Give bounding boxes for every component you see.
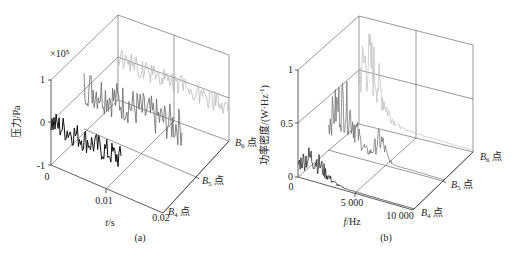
panel-a-axes [48, 80, 229, 213]
b-ytick-1: 1 [288, 64, 293, 75]
a-xtick-001: 0.01 [95, 195, 113, 206]
a-depth-b4: B4点 [168, 206, 190, 219]
a-ytick-1: 1 [40, 74, 45, 85]
a-ytick-neg1: -1 [37, 160, 45, 171]
a-xlabel: t/s [105, 217, 115, 228]
caption-a: (a) [134, 232, 145, 244]
b-depth-b6: B6点 [480, 151, 502, 164]
b-xtick-5000: 5 000 [341, 197, 364, 208]
panel-b-back-wall [298, 16, 473, 210]
a-series-trace [84, 73, 182, 145]
panel-a-traces [51, 48, 229, 166]
b-xlabel: f/Hz [343, 216, 361, 227]
a-ylabel: 压力/Pa [10, 105, 22, 138]
a-xtick-0: 0 [45, 171, 50, 182]
b-xtick-10000: 10 000 [386, 210, 414, 221]
a-exponent: ×10⁵ [50, 48, 69, 59]
panel-b-traces [298, 33, 474, 208]
figure: 1 0 -1 ×10⁵ 压力/Pa 0 0.01 0.02 t/s B4点 B5… [0, 0, 513, 258]
caption-b: (b) [380, 232, 392, 244]
a-depth-b5: B5点 [202, 175, 224, 188]
b-depth-b4: B4点 [421, 207, 443, 220]
b-ytick-05: 0.5 [281, 118, 294, 129]
b-ylabel: 功率密度/(W·Hz-1) [258, 85, 271, 165]
panel-b-axes [295, 70, 473, 210]
a-depth-b6: B6点 [235, 137, 257, 150]
b-xtick-0: 0 [289, 181, 294, 192]
panel-b: 1 0.5 0 功率密度/(W·Hz-1) 0 5 000 10 000 f/H… [258, 16, 502, 244]
a-ytick-0: 0 [40, 117, 45, 128]
b-depth-b5: B5点 [451, 179, 473, 192]
panel-a: 1 0 -1 ×10⁵ 压力/Pa 0 0.01 0.02 t/s B4点 B5… [10, 15, 257, 244]
